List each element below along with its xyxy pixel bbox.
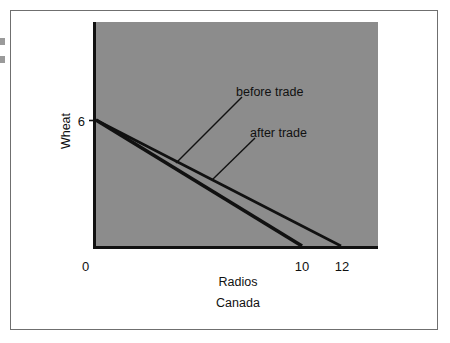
- ppf-chart: before trade after trade 6 0 10 12 Wheat…: [0, 0, 450, 343]
- y-tick-label-6: 6: [78, 114, 85, 129]
- chart-subtitle: Canada: [216, 296, 260, 310]
- x-tick-label-10: 10: [295, 259, 309, 274]
- figure-page: before trade after trade 6 0 10 12 Wheat…: [0, 0, 450, 343]
- annotation-after-trade: after trade: [250, 126, 307, 140]
- y-axis-title: Wheat: [59, 112, 73, 149]
- plot-background: [93, 22, 378, 248]
- x-tick-label-12: 12: [335, 259, 349, 274]
- annotation-before-trade: before trade: [236, 85, 303, 99]
- x-tick-label-0: 0: [82, 259, 89, 274]
- x-axis-title: Radios: [219, 275, 258, 289]
